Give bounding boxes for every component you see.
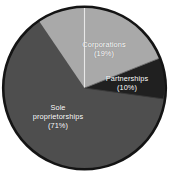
pie-label-sole-name-line1: Sole [50,103,65,112]
pie-label-corporations: Corporations (19%) [66,40,142,58]
pie-label-sole-proprietorships: Sole proprietorships (71%) [10,103,106,130]
pie-label-partnerships-value: (10%) [86,83,168,92]
pie-label-corporations-value: (19%) [66,49,142,58]
pie-chart-figure: Corporations (19%) Partnerships (10%) So… [0,0,169,176]
pie-label-sole-value: (71%) [10,121,106,130]
pie-label-sole-name-line2: proprietorships [10,112,106,121]
pie-label-partnerships: Partnerships (10%) [86,74,168,92]
pie-label-corporations-name: Corporations [82,40,126,49]
pie-label-partnerships-name: Partnerships [106,74,149,83]
